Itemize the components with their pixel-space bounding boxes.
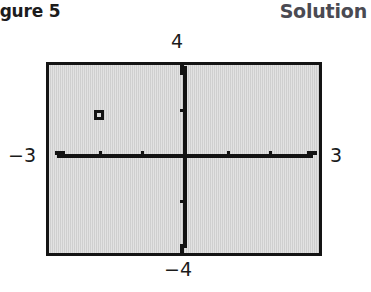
x-axis-tick	[227, 151, 230, 155]
x-axis-max-endcap	[307, 151, 317, 155]
x-axis-min-endcap	[55, 151, 65, 155]
y-axis-tick	[180, 200, 184, 203]
calculator-viewport-frame	[46, 62, 322, 256]
y-axis-line	[183, 66, 187, 248]
graphing-calculator-figure: −3 3 4 −4	[0, 0, 371, 292]
y-axis-min-label: −4	[164, 258, 192, 280]
x-axis-tick	[269, 151, 272, 155]
y-axis-min-endcap	[180, 244, 184, 254]
y-axis-tick	[180, 109, 184, 112]
y-axis-max-label: 4	[171, 30, 183, 52]
y-axis-max-endcap	[180, 65, 184, 75]
x-axis-tick	[99, 151, 102, 155]
x-axis-max-label: 3	[330, 144, 342, 166]
x-axis-tick	[141, 151, 144, 155]
x-axis-min-label: −3	[8, 144, 36, 166]
plotted-point-marker	[94, 110, 104, 120]
calculator-screen	[49, 65, 319, 253]
